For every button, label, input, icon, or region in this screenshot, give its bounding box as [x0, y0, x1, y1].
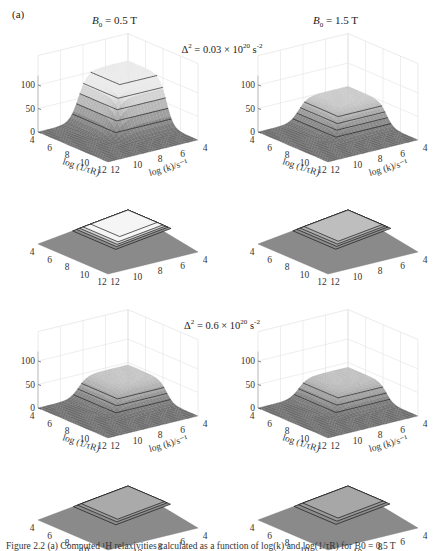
- proj-x-tick-label: 12: [317, 277, 327, 287]
- surface: [38, 365, 198, 438]
- proj-x-tick-label: 12: [97, 277, 107, 287]
- surface: [258, 367, 418, 438]
- z-grid-line: [258, 339, 418, 369]
- proj-y-tick-label: 4: [423, 255, 428, 265]
- y-axis-label: log (k)/s⁻¹: [368, 433, 409, 455]
- proj-x-tick-label: 8: [285, 262, 290, 272]
- proj-x-tick-label: 8: [65, 262, 70, 272]
- y-tick-label: 4: [423, 143, 428, 153]
- proj-x-tick-label: 4: [250, 523, 255, 533]
- z-tick: [258, 385, 261, 386]
- z-tick-label: 50: [246, 104, 256, 114]
- x-tick-label: 4: [250, 411, 255, 421]
- z-tick: [258, 109, 261, 110]
- y-axis-label: log (k)/s⁻¹: [368, 157, 409, 179]
- proj-y-tick-label: 10: [133, 272, 143, 282]
- proj-x-tick-label: 4: [30, 247, 35, 257]
- x-tick-label: 4: [30, 411, 35, 421]
- proj-y-tick-label: 10: [353, 272, 363, 282]
- y-tick-label: 4: [423, 419, 428, 429]
- proj-y-tick-label: 12: [110, 277, 120, 287]
- proj-y-tick-label: 12: [330, 277, 340, 287]
- z-tick: [258, 361, 261, 362]
- x-tick-label: 6: [47, 143, 52, 153]
- surface-panel-top-left: 05010046810121210864log (1/τR)log (k)/s⁻…: [21, 34, 208, 287]
- proj-y-tick-label: 6: [400, 261, 405, 271]
- y-tick-label: 8: [378, 154, 383, 164]
- proj-x-tick-label: 6: [47, 255, 52, 265]
- proj-x-tick-label: 6: [267, 255, 272, 265]
- y-tick-label: 8: [158, 430, 163, 440]
- y-axis-label: log (k)/s⁻¹: [148, 433, 189, 455]
- surface-panel-bottom-right: 05010046810121210864log (1/τR)log (k)/s⁻…: [241, 310, 428, 551]
- y-tick-label: 10: [133, 160, 143, 170]
- proj-x-tick-label: 6: [267, 531, 272, 541]
- x-tick-label: 4: [30, 135, 35, 145]
- z-tick-label: 100: [241, 80, 256, 90]
- surface: [38, 61, 198, 162]
- proj-y-tick-label: 8: [378, 266, 383, 276]
- proj-y-tick-label: 6: [180, 261, 185, 271]
- proj-x-tick-label: 4: [250, 247, 255, 257]
- y-tick-label: 12: [110, 165, 120, 175]
- z-tick: [38, 109, 41, 110]
- z-tick-label: 50: [26, 380, 36, 390]
- surface-panel-top-right: 05010046810121210864log (1/τR)log (k)/s⁻…: [241, 34, 428, 287]
- z-tick: [38, 85, 41, 86]
- proj-y-tick-label: 4: [203, 531, 208, 541]
- z-tick-label: 50: [246, 380, 256, 390]
- y-tick-label: 12: [330, 441, 340, 451]
- surface-panel-bottom-left: 05010046810121210864log (1/τR)log (k)/s⁻…: [21, 310, 208, 551]
- y-tick-label: 10: [353, 436, 363, 446]
- contour-projection: 46810121210864: [30, 210, 208, 287]
- proj-x-tick-label: 10: [300, 270, 310, 280]
- x-tick-label: 6: [267, 419, 272, 429]
- proj-x-tick-label: 10: [80, 270, 90, 280]
- z-grid-line: [258, 63, 418, 93]
- z-grid-line: [38, 339, 198, 369]
- y-tick-label: 8: [378, 430, 383, 440]
- z-tick-label: 100: [21, 80, 36, 90]
- z-tick-label: 100: [21, 356, 36, 366]
- y-tick-label: 10: [133, 436, 143, 446]
- y-tick-label: 12: [330, 165, 340, 175]
- x-tick-label: 6: [267, 143, 272, 153]
- y-tick-label: 4: [203, 419, 208, 429]
- x-tick-label: 6: [47, 419, 52, 429]
- proj-x-tick-label: 4: [30, 523, 35, 533]
- surface-plot-top-left: 05010046810121210864log (1/τR)log (k)/s⁻…: [0, 0, 444, 551]
- y-tick-label: 8: [158, 154, 163, 164]
- z-tick: [38, 361, 41, 362]
- z-tick-label: 100: [241, 356, 256, 366]
- y-axis-label: log (k)/s⁻¹: [148, 157, 189, 179]
- surface: [258, 87, 418, 163]
- z-tick: [258, 85, 261, 86]
- y-tick-label: 4: [203, 143, 208, 153]
- x-tick-label: 4: [250, 135, 255, 145]
- z-tick: [38, 385, 41, 386]
- proj-y-tick-label: 8: [158, 266, 163, 276]
- figure-caption: Figure 2.2 (a) Computed ¹H relaxivities …: [6, 541, 444, 551]
- contour-projection: 46810121210864: [250, 210, 428, 287]
- proj-x-tick-label: 6: [47, 531, 52, 541]
- y-tick-label: 10: [353, 160, 363, 170]
- z-tick-label: 50: [26, 104, 36, 114]
- proj-y-tick-label: 4: [423, 531, 428, 541]
- y-tick-label: 12: [110, 441, 120, 451]
- proj-y-tick-label: 4: [203, 255, 208, 265]
